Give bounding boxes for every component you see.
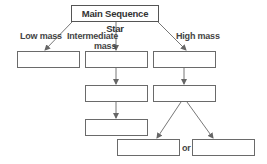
intermediate-stage-2-box bbox=[85, 85, 148, 102]
high-mass-outcome-b-box bbox=[192, 139, 255, 156]
branch-label-high-mass: High mass bbox=[176, 31, 220, 41]
high-mass-stage-2-box bbox=[153, 85, 216, 102]
low-mass-stage-1-box bbox=[17, 51, 80, 68]
branch-label-low-mass: Low mass bbox=[20, 31, 62, 41]
high-mass-outcome-a-box bbox=[117, 139, 180, 156]
high-mass-stage-1-box bbox=[153, 51, 216, 68]
intermediate-stage-1-box bbox=[85, 51, 148, 68]
root-node-main-sequence-star: Main Sequence Star bbox=[71, 5, 159, 22]
intermediate-stage-3-box bbox=[85, 119, 148, 136]
or-connector-text: or bbox=[182, 143, 191, 153]
branch-label-intermediate: Intermediate bbox=[67, 31, 118, 41]
branch-label-intermediate-mass: mass bbox=[94, 41, 116, 51]
